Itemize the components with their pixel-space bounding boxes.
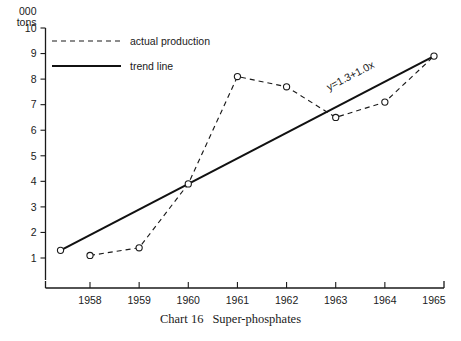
svg-text:1963: 1963: [324, 294, 348, 306]
chart-plot-area: 12345678910 1958195919601961196219631964…: [0, 0, 461, 341]
chart-container: 12345678910 1958195919601961196219631964…: [0, 0, 461, 341]
svg-text:1962: 1962: [275, 294, 299, 306]
svg-text:5: 5: [31, 150, 37, 162]
svg-text:actual production: actual production: [130, 35, 210, 47]
series-actual-production: [90, 56, 434, 255]
svg-text:1960: 1960: [177, 294, 201, 306]
svg-text:trend line: trend line: [130, 60, 173, 72]
svg-text:1: 1: [31, 252, 37, 264]
svg-text:1965: 1965: [422, 294, 446, 306]
equation-annotation: y=1.3+1.0x: [324, 58, 376, 93]
svg-text:1959: 1959: [127, 294, 151, 306]
svg-text:y=1.3+1.0x: y=1.3+1.0x: [324, 58, 376, 93]
caption-number: Chart 16: [160, 312, 203, 326]
svg-text:1964: 1964: [373, 294, 397, 306]
svg-text:8: 8: [31, 73, 37, 85]
svg-text:2: 2: [31, 226, 37, 238]
x-axis-ticks: 19581959196019611962196319641965: [78, 282, 446, 306]
series-trend-line: [61, 56, 434, 250]
svg-text:4: 4: [31, 175, 37, 187]
caption-title: Super-phosphates: [212, 312, 301, 326]
y-axis-unit-label: 000tons: [17, 5, 37, 28]
svg-text:6: 6: [31, 124, 37, 136]
svg-text:3: 3: [31, 201, 37, 213]
svg-text:tons: tons: [17, 16, 37, 28]
chart-caption: Chart 16Super-phosphates: [0, 312, 461, 327]
y-axis-ticks: 12345678910: [25, 22, 46, 264]
svg-text:1961: 1961: [226, 294, 250, 306]
svg-text:9: 9: [31, 47, 37, 59]
svg-text:1958: 1958: [78, 294, 102, 306]
chart-legend: actual productiontrend line: [52, 35, 210, 72]
svg-text:7: 7: [31, 98, 37, 110]
